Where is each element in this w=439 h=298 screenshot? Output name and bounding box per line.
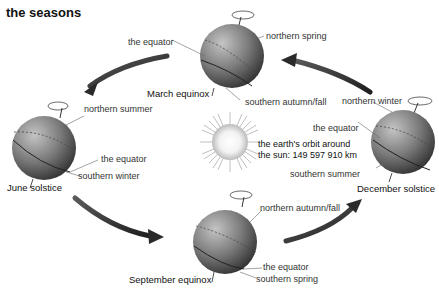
orbit-line-2: the sun: 149 597 910 km — [258, 150, 357, 161]
globe-march-equinox — [172, 11, 264, 100]
label-december-north: northern winter — [342, 96, 402, 106]
orbit-arrow-june-to-september — [75, 198, 164, 244]
orbit-distance-text: the earth's orbit around the sun: 149 59… — [258, 139, 357, 161]
rotation-arrow-icon — [48, 102, 68, 110]
label-june-south: southern winter — [78, 171, 140, 181]
globe-december-solstice — [358, 97, 435, 182]
label-december-south: southern summer — [290, 169, 360, 179]
globe-september-equinox — [193, 191, 262, 282]
caption-september-equinox: September equinox — [129, 274, 211, 285]
label-march-equator: the equator — [128, 37, 174, 47]
caption-december-solstice: December solstice — [357, 183, 435, 194]
sun-icon — [200, 112, 260, 172]
orbit-line-1: the earth's orbit around — [258, 139, 357, 150]
rotation-arrow-icon — [408, 97, 432, 105]
label-december-equator: the equator — [313, 123, 359, 133]
label-september-equator: the equator — [263, 262, 309, 272]
label-march-north: northern spring — [266, 31, 327, 41]
rotation-arrow-icon — [232, 11, 254, 19]
rotation-arrow-icon — [230, 191, 252, 199]
label-march-south: southern autumn/fall — [245, 97, 327, 107]
label-september-north: northern autumn/fall — [260, 203, 340, 213]
seasons-diagram — [0, 0, 439, 298]
label-june-north: northern summer — [84, 104, 153, 114]
label-september-south: southern spring — [256, 274, 318, 284]
caption-june-solstice: June solstice — [7, 182, 62, 193]
label-june-equator: the equator — [101, 154, 147, 164]
caption-march-equinox: March equinox — [147, 88, 209, 99]
orbit-arrow-december-to-march — [281, 53, 370, 92]
